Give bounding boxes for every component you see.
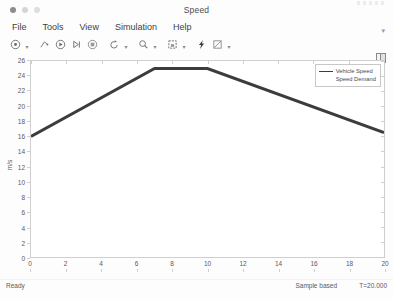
x-tick-mark-top [102, 61, 103, 64]
x-tick-mark-top [172, 61, 173, 64]
x-tick-label: 14 [275, 260, 282, 267]
y-tick-mark-right [381, 151, 384, 152]
title-bar: Speed [0, 0, 393, 20]
y-tick-label: 26 [18, 57, 25, 64]
x-tick-mark [30, 269, 31, 272]
y-tick-mark-right [381, 257, 384, 258]
x-tick-mark [66, 269, 67, 272]
x-tick-mark-top [313, 61, 314, 64]
x-tick-mark [279, 269, 280, 272]
legend-label-speed-demand: Speed Demand [336, 76, 376, 82]
signal-curve [31, 61, 384, 257]
y-tick-label: 6 [21, 209, 25, 216]
x-tick-mark [137, 269, 138, 272]
y-tick-mark-right [381, 227, 384, 228]
x-axis: 02468101214161820 [30, 260, 385, 272]
x-tick-label: 10 [204, 260, 211, 267]
y-tick-label: 2 [21, 239, 25, 246]
y-tick-mark-right [381, 106, 384, 107]
x-tick-label: 4 [99, 260, 103, 267]
status-divider [0, 279, 393, 280]
legend-swatch-speed-demand [319, 79, 333, 80]
measurements-icon[interactable] [210, 38, 225, 52]
step-forward-icon[interactable] [69, 38, 84, 52]
menu-help[interactable]: Help [171, 21, 194, 33]
measurements-caret-icon[interactable]: ▾ [226, 36, 232, 53]
y-tick-mark-right [381, 167, 384, 168]
y-tick-label: 18 [18, 117, 25, 124]
y-tick-mark-right [381, 182, 384, 183]
legend[interactable]: Vehicle Speed Speed Demand [315, 64, 381, 87]
y-tick-label: 20 [18, 102, 25, 109]
y-tick-label: 24 [18, 72, 25, 79]
x-tick-label: 16 [310, 260, 317, 267]
legend-item-speed-demand: Speed Demand [319, 75, 376, 83]
y-tick-mark [27, 258, 30, 259]
trigger-icon[interactable] [194, 38, 209, 52]
legend-swatch-vehicle-speed [319, 71, 333, 72]
y-tick-label: 14 [18, 148, 25, 155]
y-tick-label: 8 [21, 194, 25, 201]
menu-view[interactable]: View [78, 21, 101, 33]
x-tick-label: 8 [170, 260, 174, 267]
x-tick-mark [208, 269, 209, 272]
restore-view-icon[interactable] [107, 38, 122, 52]
window-title: Speed [0, 5, 393, 15]
menu-overflow-caret-icon[interactable]: ▾ [381, 27, 385, 35]
y-tick-label: 0 [21, 255, 25, 262]
print-caret-icon[interactable]: ▾ [24, 36, 30, 53]
x-tick-mark [350, 269, 351, 272]
x-tick-mark-top [278, 61, 279, 64]
legend-label-vehicle-speed: Vehicle Speed [336, 68, 373, 74]
menu-tools[interactable]: Tools [41, 21, 66, 33]
status-sample-mode: Sample based [295, 282, 337, 289]
x-tick-mark-top [31, 61, 32, 64]
x-tick-mark-top [384, 61, 385, 64]
menu-file[interactable]: File [10, 21, 29, 33]
zoom-caret-icon[interactable]: ▾ [152, 36, 158, 53]
legend-item-vehicle-speed: Vehicle Speed [319, 67, 376, 75]
x-tick-label: 12 [239, 260, 246, 267]
y-tick-label: 22 [18, 87, 25, 94]
x-tick-mark [243, 269, 244, 272]
x-tick-label: 18 [346, 260, 353, 267]
zoom-icon[interactable] [136, 38, 151, 52]
x-tick-label: 20 [381, 260, 388, 267]
y-tick-mark-right [381, 91, 384, 92]
x-tick-label: 0 [28, 260, 32, 267]
save-layout-icon[interactable] [165, 38, 180, 52]
run-icon[interactable] [53, 38, 68, 52]
toolbar: ▾ ▾ ▾ ▾ [8, 37, 232, 52]
x-tick-mark-top [349, 61, 350, 64]
y-tick-label: 10 [18, 178, 25, 185]
save-layout-caret-icon[interactable]: ▾ [181, 36, 187, 53]
y-tick-mark-right [381, 242, 384, 243]
stop-icon[interactable] [85, 38, 100, 52]
status-time: T=20.000 [359, 282, 387, 289]
x-tick-label: 6 [135, 260, 139, 267]
axes-box: Vehicle Speed Speed Demand [30, 60, 385, 258]
x-tick-mark [314, 269, 315, 272]
x-tick-mark [101, 269, 102, 272]
restore-view-caret-icon[interactable]: ▾ [123, 36, 129, 53]
y-axis-title: m/s [6, 160, 13, 170]
configuration-properties-icon[interactable] [37, 38, 52, 52]
x-tick-mark-top [137, 61, 138, 64]
y-tick-mark-right [381, 121, 384, 122]
print-icon[interactable] [8, 38, 23, 52]
x-tick-mark [172, 269, 173, 272]
scope-plot: 02468101214161820222426 Vehicle Speed Sp… [6, 54, 387, 276]
status-ready: Ready [6, 282, 25, 289]
y-tick-mark-right [381, 76, 384, 77]
menu-bar: File Tools View Simulation Help [10, 21, 193, 33]
y-tick-mark-right [381, 197, 384, 198]
x-tick-mark-top [66, 61, 67, 64]
x-tick-mark-top [208, 61, 209, 64]
y-tick-label: 4 [21, 224, 25, 231]
scope-window: Speed File Tools View Simulation Help ▾ … [0, 0, 393, 299]
y-tick-label: 12 [18, 163, 25, 170]
x-tick-label: 2 [64, 260, 68, 267]
menu-simulation[interactable]: Simulation [113, 21, 159, 33]
y-tick-mark-right [381, 212, 384, 213]
y-tick-label: 16 [18, 133, 25, 140]
